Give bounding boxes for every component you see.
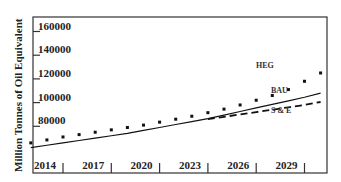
heg-data-point xyxy=(78,133,81,136)
y-axis-label: Million Tonnes of Oil Equivalent xyxy=(12,18,24,172)
heg-data-point xyxy=(142,124,145,127)
x-tick-label: 2029 xyxy=(276,159,299,171)
series-label-se: S & E xyxy=(271,106,291,115)
heg-data-point xyxy=(190,115,193,118)
x-tick-label: 2026 xyxy=(227,159,250,171)
heg-data-point xyxy=(255,99,258,102)
y-tick-label: 80000 xyxy=(38,114,66,126)
heg-data-point xyxy=(110,128,113,131)
y-tick-label: 120000 xyxy=(38,67,72,79)
heg-data-point xyxy=(303,80,306,83)
heg-data-point xyxy=(223,108,226,111)
y-tick-label: 100000 xyxy=(38,91,72,103)
y-tick-label: 140000 xyxy=(38,43,72,55)
x-axis-ticks: 201420172020202320262029 xyxy=(34,159,305,173)
x-tick-label: 2020 xyxy=(131,159,154,171)
y-axis-ticks: 80000100000120000140000160000 xyxy=(33,20,72,127)
heg-data-point xyxy=(45,138,48,141)
heg-data-point xyxy=(319,71,322,74)
heg-data-point xyxy=(29,141,32,144)
heg-data-point xyxy=(174,118,177,121)
x-tick-label: 2023 xyxy=(179,159,202,171)
heg-data-point xyxy=(158,121,161,124)
heg-data-point xyxy=(126,126,129,129)
heg-data-point xyxy=(239,103,242,106)
series-label-heg: HEG xyxy=(256,61,274,70)
y-tick-label: 160000 xyxy=(38,20,72,32)
x-tick-label: 2017 xyxy=(82,159,105,171)
heg-data-point xyxy=(94,131,97,134)
heg-data-point xyxy=(62,135,65,138)
line-chart: Million Tonnes of Oil Equivalent 8000010… xyxy=(0,0,341,182)
heg-data-point xyxy=(206,111,209,114)
series-label-bau: BAU xyxy=(271,86,288,95)
x-tick-label: 2014 xyxy=(34,159,57,171)
plot-frame xyxy=(33,17,327,173)
